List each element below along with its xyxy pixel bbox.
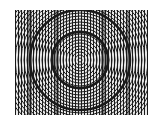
moire-pattern bbox=[0, 0, 161, 130]
